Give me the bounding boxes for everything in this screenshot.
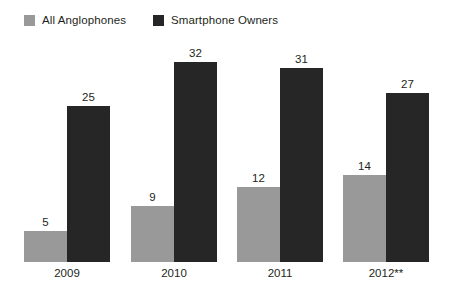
bar-value-label: 27 [401, 78, 414, 90]
bar-value-label: 31 [295, 53, 308, 65]
bar-column: 32 [174, 44, 217, 262]
bar-group: 1427 [343, 34, 429, 262]
bar-value-label: 12 [252, 172, 265, 184]
bar-group: 932 [131, 34, 217, 262]
bar-column: 5 [24, 213, 67, 262]
plot-area: 525200993220101231201114272012** [0, 0, 453, 296]
x-axis-label-2009: 2009 [24, 266, 110, 280]
bar-all-anglophones-2012[interactable] [343, 175, 386, 263]
x-axis-label-2012: 2012** [343, 266, 429, 280]
bar-group: 1231 [237, 34, 323, 262]
bar-column: 31 [280, 50, 323, 262]
bar-column: 25 [67, 88, 110, 262]
bar-value-label: 25 [82, 91, 95, 103]
bar-column: 14 [343, 157, 386, 263]
bar-value-label: 9 [149, 191, 155, 203]
bar-all-anglophones-2011[interactable] [237, 187, 280, 262]
bar-value-label: 14 [358, 160, 371, 172]
x-axis-label-2010: 2010 [131, 266, 217, 280]
x-axis-label-2011: 2011 [237, 266, 323, 280]
bar-all-anglophones-2010[interactable] [131, 206, 174, 262]
bar-column: 9 [131, 188, 174, 262]
bar-smartphone-owners-2011[interactable] [280, 68, 323, 262]
bar-smartphone-owners-2009[interactable] [67, 106, 110, 262]
bar-chart: All Anglophones Smartphone Owners 525200… [0, 0, 453, 296]
bar-column: 27 [386, 75, 429, 262]
bar-group: 525 [24, 34, 110, 262]
bar-column: 12 [237, 169, 280, 262]
bar-value-label: 32 [189, 47, 202, 59]
bar-smartphone-owners-2010[interactable] [174, 62, 217, 262]
bar-all-anglophones-2009[interactable] [24, 231, 67, 262]
bar-value-label: 5 [42, 216, 48, 228]
bar-smartphone-owners-2012[interactable] [386, 93, 429, 262]
